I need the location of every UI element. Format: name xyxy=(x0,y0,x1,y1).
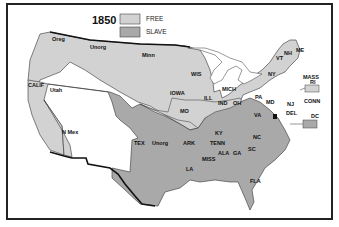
callout-ri-box xyxy=(305,85,319,92)
label-iowa: IOWA xyxy=(170,90,185,96)
label-ill: ILL xyxy=(204,95,213,101)
label-dc: DC xyxy=(311,113,319,119)
label-ky: KY xyxy=(215,130,223,136)
label-mo: MO xyxy=(180,108,190,114)
label-ark: ARK xyxy=(183,140,195,146)
label-ala: ALA xyxy=(218,150,229,156)
label-minn: Minn xyxy=(142,52,155,58)
label-mich: MICH xyxy=(222,86,236,92)
label-wis: WIS xyxy=(191,71,202,77)
label-del: DEL xyxy=(286,110,298,116)
map-year: 1850 xyxy=(92,14,116,26)
label-oreg: Oreg xyxy=(52,36,65,42)
legend-swatch-slave xyxy=(120,27,140,37)
label-me: ME xyxy=(296,47,305,53)
label-pa: PA xyxy=(255,94,262,100)
label-unorg-south: Unorg xyxy=(152,140,168,146)
label-utah: Utah xyxy=(50,87,63,93)
label-vt: VT xyxy=(276,55,284,61)
label-unorg-north: Unorg xyxy=(90,44,106,50)
label-sc: SC xyxy=(248,146,256,152)
label-ri: RI xyxy=(310,79,316,85)
label-ind: IND xyxy=(218,100,228,106)
us-1850-map: 1850 FREE SLAVE Oreg Unorg Minn CALIF Ut… xyxy=(0,0,339,227)
label-fla: FLA xyxy=(250,178,261,184)
label-nj: NJ xyxy=(287,101,294,107)
label-tenn: TENN xyxy=(210,140,225,146)
dc-marker xyxy=(273,114,277,119)
legend-label-free: FREE xyxy=(146,15,164,22)
legend-swatch-free xyxy=(120,14,140,24)
legend-label-slave: SLAVE xyxy=(146,28,167,35)
label-ga: GA xyxy=(233,150,241,156)
label-nc: NC xyxy=(253,134,261,140)
label-nh: NH xyxy=(284,50,292,56)
label-ny: NY xyxy=(268,71,276,77)
label-la: LA xyxy=(186,166,193,172)
callout-dc-box xyxy=(303,120,317,128)
label-conn: CONN xyxy=(304,98,320,104)
label-calif: CALIF xyxy=(28,82,45,88)
label-oh: OH xyxy=(233,100,241,106)
label-md: MD xyxy=(266,99,275,105)
label-va: VA xyxy=(254,112,261,118)
label-n-mex: N Mex xyxy=(62,129,79,135)
label-miss: MISS xyxy=(202,156,216,162)
label-tex: TEX xyxy=(134,140,145,146)
